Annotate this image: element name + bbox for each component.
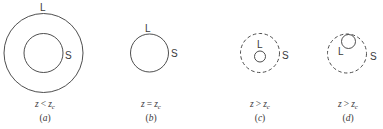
inner-circle-S — [24, 34, 63, 73]
inner-circle-L — [255, 51, 266, 62]
caption: (b) — [145, 113, 156, 124]
panel-d: L S z>zc (d) — [328, 34, 378, 124]
label-L: L — [40, 2, 46, 13]
inner-circle-L — [342, 35, 356, 49]
caption: (c) — [255, 113, 266, 124]
relation: z<zc — [34, 99, 56, 111]
coexistence-circle — [131, 34, 169, 72]
label-S: S — [370, 51, 377, 62]
label-L: L — [257, 39, 263, 50]
label-L: L — [145, 23, 151, 34]
label-S: S — [65, 50, 72, 61]
relation: z>zc — [337, 99, 359, 111]
panel-b: L S z=zc (b) — [131, 23, 179, 124]
caption: (a) — [39, 113, 50, 124]
panel-c: L S z>zc (c) — [241, 34, 290, 125]
label-S: S — [171, 48, 178, 59]
relation: z=zc — [140, 99, 162, 111]
label-S: S — [282, 50, 289, 61]
outer-dashed-circle-S — [328, 34, 367, 73]
phase-diagram-figure: L S z<zc (a) L S z=zc (b) L S z>zc (c) L… — [0, 0, 383, 129]
relation: z>zc — [249, 99, 271, 111]
label-L: L — [338, 46, 344, 57]
panel-a: L S z<zc (a) — [4, 2, 83, 124]
caption: (d) — [342, 113, 353, 124]
